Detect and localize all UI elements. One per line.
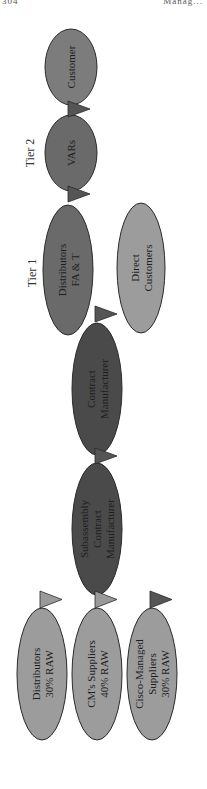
node-contract-manufacturer: ContractManufacturer [72, 323, 122, 455]
node-subassembly-cm: SubassemblyContractManufacturer [72, 463, 122, 595]
flag-cms-suppliers-subassembly-icon [95, 591, 117, 608]
node-label-line: Cisco-Managed [133, 639, 145, 709]
node-label-line: 30% RAW [43, 650, 55, 698]
node-label: CM's Suppliers40% RAW [85, 640, 110, 708]
node-cms-suppliers: CM's Suppliers40% RAW [72, 608, 122, 740]
node-vars: VARs [45, 115, 97, 191]
node-label-line: Manufacturer [98, 359, 110, 419]
flag-distributors-raw-icon [40, 591, 62, 608]
node-label-line: Customer [65, 45, 77, 88]
node-label-line: CM's Suppliers [85, 640, 97, 708]
node-direct-customers: DirectCustomers [117, 203, 165, 333]
node-label-line: Customers [142, 244, 154, 291]
node-label-line: Contract [85, 370, 97, 408]
node-cisco-managed-suppliers: Cisco-ManagedSuppliers30% RAW [127, 608, 177, 740]
node-label-line: Suppliers [146, 653, 158, 695]
node-customer: Customer [45, 29, 97, 105]
flag-cm-distributors-icon [95, 306, 117, 322]
node-label-line: Direct [129, 254, 141, 281]
node-label-line: Manufacturer [104, 499, 116, 559]
node-label-line: 30% RAW [159, 650, 171, 698]
node-label-line: 40% RAW [98, 650, 110, 698]
node-label: VARs [65, 140, 77, 166]
tier-label-tier2: Tier 2 [23, 139, 37, 168]
node-distributors-fat: DistributorsFA & T [43, 205, 93, 335]
node-label-line: Subassembly [78, 499, 90, 558]
node-label-line: FA & T [69, 253, 81, 286]
node-label-line: VARs [65, 140, 77, 166]
node-label-line: Distributors [30, 648, 42, 701]
flag-cisco-managed-icon [150, 591, 172, 608]
supply-chain-diagram: Tier 2Tier 1CustomerVARsDistributorsFA &… [0, 0, 207, 789]
node-distributors-raw: Distributors30% RAW [17, 608, 67, 740]
node-label: Customer [65, 45, 77, 88]
node-label-line: Distributors [56, 244, 68, 297]
node-label-line: Contract [91, 510, 103, 548]
tier-label-tier1: Tier 1 [25, 259, 39, 288]
node-label: Distributors30% RAW [30, 648, 55, 701]
